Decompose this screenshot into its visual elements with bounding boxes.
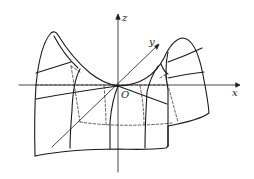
origin-label: O <box>121 90 129 100</box>
y-axis-arrow <box>155 44 159 49</box>
hidden-lines <box>36 66 178 126</box>
saddle-diagram: z y x O <box>0 0 254 179</box>
x-axis-label: x <box>232 88 238 98</box>
z-axis-label: z <box>122 13 127 23</box>
z-axis-arrow <box>116 14 120 19</box>
y-axis-label: y <box>149 37 155 47</box>
